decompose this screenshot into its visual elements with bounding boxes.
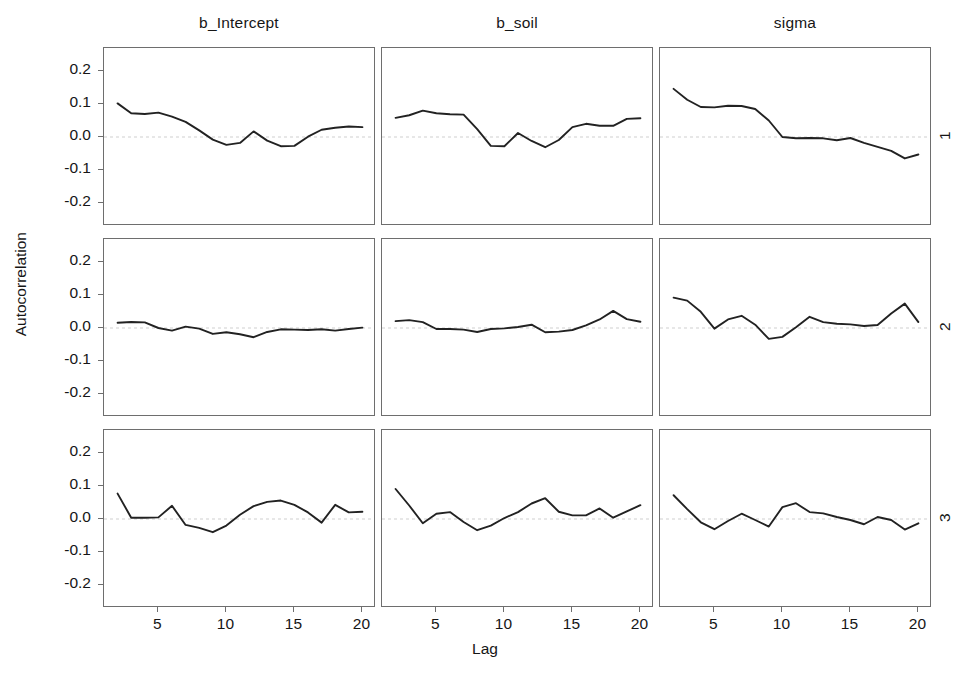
y-tick-mark <box>98 485 103 486</box>
panel-plot-area <box>104 239 375 416</box>
x-tick-mark <box>157 607 158 612</box>
y-tick-label: 0.2 <box>23 60 91 78</box>
acf-line-series <box>118 103 363 146</box>
y-tick-mark <box>98 261 103 262</box>
panel-b-soil-chain-3 <box>381 429 653 607</box>
y-tick-mark <box>98 393 103 394</box>
x-tick-label: 5 <box>132 615 182 633</box>
y-tick-label: -0.1 <box>23 541 91 559</box>
acf-line-series <box>396 311 641 332</box>
panel-plot-area <box>104 430 375 607</box>
x-axis-title: Lag <box>0 640 970 658</box>
x-tick-mark <box>571 607 572 612</box>
y-tick-label: 0.1 <box>23 284 91 302</box>
y-tick-label: -0.2 <box>23 383 91 401</box>
acf-line-series <box>674 298 919 339</box>
y-tick-label: -0.2 <box>23 192 91 210</box>
x-tick-mark <box>503 607 504 612</box>
y-tick-label: -0.1 <box>23 159 91 177</box>
strip-label-row-1: 1 <box>936 47 954 225</box>
y-tick-mark <box>98 551 103 552</box>
panel-sigma-chain-1 <box>659 47 931 225</box>
acf-line-series <box>674 89 919 159</box>
x-tick-mark <box>639 607 640 612</box>
panel-b-intercept-chain-2 <box>103 238 375 416</box>
x-tick-mark <box>361 607 362 612</box>
x-tick-label: 15 <box>268 615 318 633</box>
acf-line-series <box>396 111 641 148</box>
y-tick-mark <box>98 294 103 295</box>
x-tick-mark <box>917 607 918 612</box>
panel-b-soil-chain-2 <box>381 238 653 416</box>
x-tick-mark <box>435 607 436 612</box>
y-tick-mark <box>98 360 103 361</box>
x-tick-label: 15 <box>546 615 596 633</box>
x-tick-mark <box>293 607 294 612</box>
y-tick-mark <box>98 136 103 137</box>
x-tick-label: 5 <box>410 615 460 633</box>
panel-plot-area <box>382 430 653 607</box>
panel-b-intercept-chain-3 <box>103 429 375 607</box>
y-tick-label: 0.1 <box>23 475 91 493</box>
y-tick-mark <box>98 202 103 203</box>
panel-title-col-2: b_soil <box>381 14 653 32</box>
acf-line-series <box>118 322 363 337</box>
y-tick-mark <box>98 518 103 519</box>
x-tick-mark <box>849 607 850 612</box>
y-tick-mark <box>98 452 103 453</box>
x-tick-label: 10 <box>478 615 528 633</box>
y-tick-mark <box>98 103 103 104</box>
y-tick-mark <box>98 327 103 328</box>
y-tick-mark <box>98 70 103 71</box>
acf-line-series <box>674 495 919 529</box>
y-tick-label: -0.2 <box>23 574 91 592</box>
y-tick-mark <box>98 584 103 585</box>
panel-title-col-3: sigma <box>659 14 931 32</box>
y-tick-label: 0.0 <box>23 317 91 335</box>
panel-plot-area <box>104 48 375 225</box>
y-tick-mark <box>98 169 103 170</box>
panel-b-soil-chain-1 <box>381 47 653 225</box>
panel-sigma-chain-2 <box>659 238 931 416</box>
panel-plot-area <box>660 239 931 416</box>
y-tick-label: 0.2 <box>23 251 91 269</box>
y-tick-label: -0.1 <box>23 350 91 368</box>
x-tick-label: 15 <box>824 615 874 633</box>
x-tick-mark <box>713 607 714 612</box>
x-tick-label: 20 <box>614 615 664 633</box>
panel-plot-area <box>382 239 653 416</box>
strip-label-row-2: 2 <box>936 238 954 416</box>
y-tick-label: 0.1 <box>23 93 91 111</box>
y-tick-label: 0.0 <box>23 508 91 526</box>
x-tick-mark <box>225 607 226 612</box>
panel-sigma-chain-3 <box>659 429 931 607</box>
autocorrelation-figure: b_Intercept b_soil sigma 1 2 3 Autocorre… <box>0 0 970 676</box>
panel-plot-area <box>660 48 931 225</box>
panel-title-col-1: b_Intercept <box>103 14 375 32</box>
panel-b-intercept-chain-1 <box>103 47 375 225</box>
x-tick-label: 10 <box>756 615 806 633</box>
panel-plot-area <box>660 430 931 607</box>
panel-plot-area <box>382 48 653 225</box>
y-tick-label: 0.2 <box>23 442 91 460</box>
x-tick-label: 20 <box>892 615 942 633</box>
x-tick-mark <box>781 607 782 612</box>
acf-line-series <box>396 489 641 530</box>
x-tick-label: 20 <box>336 615 386 633</box>
acf-line-series <box>118 494 363 533</box>
x-tick-label: 10 <box>200 615 250 633</box>
strip-label-row-3: 3 <box>936 429 954 607</box>
x-tick-label: 5 <box>688 615 738 633</box>
y-tick-label: 0.0 <box>23 126 91 144</box>
